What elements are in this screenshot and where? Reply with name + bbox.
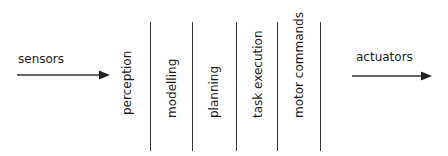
divider-2 bbox=[192, 22, 193, 151]
stage-label-planning: planning bbox=[207, 66, 221, 118]
input-arrow bbox=[17, 71, 110, 80]
divider-5 bbox=[320, 22, 321, 151]
stage-label-task-execution: task execution bbox=[251, 30, 265, 118]
divider-1 bbox=[150, 22, 151, 151]
stage-label-perception: perception bbox=[120, 51, 134, 115]
output-arrow bbox=[352, 72, 432, 81]
divider-4 bbox=[277, 22, 278, 151]
stage-label-motor-commands: motor commands bbox=[292, 12, 306, 118]
divider-3 bbox=[236, 22, 237, 151]
stage-label-modelling: modelling bbox=[165, 59, 179, 118]
arrows bbox=[0, 0, 448, 156]
